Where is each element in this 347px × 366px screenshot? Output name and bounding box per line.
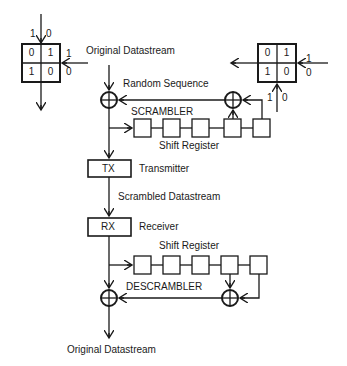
legend-right-side-input-1: 1 <box>306 53 312 64</box>
legend-right-cell: 1 <box>258 66 277 77</box>
legend-left-side-input-1: 1 <box>66 48 72 59</box>
legend-left-top-input-1: 1 <box>30 28 36 39</box>
legend-left-cell: 1 <box>41 47 60 58</box>
scrambled-datastream-label: Scrambled Datastream <box>118 191 220 202</box>
scrambler-label: SCRAMBLER <box>131 106 193 117</box>
legend-right-cell: 0 <box>258 47 277 58</box>
random-sequence-label: Random Sequence <box>123 78 209 89</box>
original-datastream-in-label: Original Datastream <box>86 45 175 56</box>
shift-register-top-label: Shift Register <box>159 140 219 151</box>
legend-right-cell: 1 <box>277 47 296 58</box>
descrambler-label: DESCRAMBLER <box>126 281 202 292</box>
original-datastream-out-label: Original Datastream <box>67 344 156 355</box>
tx-label: TX <box>102 163 115 174</box>
legend-right-bottom-input-0: 0 <box>282 92 288 103</box>
receiver-label: Receiver <box>139 221 178 232</box>
legend-left-side-input-0: 0 <box>66 66 72 77</box>
legend-right-cell: 0 <box>277 66 296 77</box>
transmitter-label: Transmitter <box>139 163 189 174</box>
shift-register-bottom-label: Shift Register <box>159 240 219 251</box>
legend-right-bottom-input-1: 1 <box>267 92 273 103</box>
legend-left-top-input-0: 0 <box>46 28 52 39</box>
legend-left-cell: 0 <box>22 47 41 58</box>
rx-label: RX <box>101 221 115 232</box>
legend-left-cell: 1 <box>22 66 41 77</box>
legend-right-side-input-0: 0 <box>306 67 312 78</box>
legend-left-cell: 0 <box>41 66 60 77</box>
